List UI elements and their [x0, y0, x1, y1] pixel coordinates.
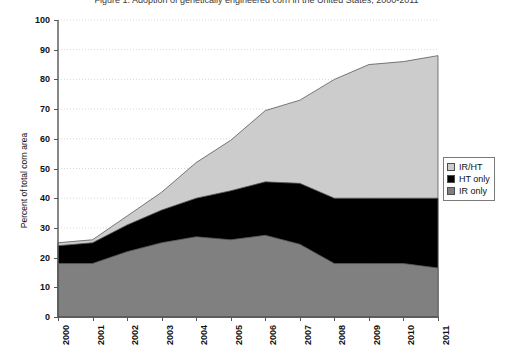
legend-swatch-icon — [447, 163, 455, 171]
legend-item-label: IR/HT — [459, 163, 483, 172]
stacked-area-chart: Figure 1. Adoption of genetically engine… — [0, 0, 513, 361]
legend-item[interactable]: IR only — [447, 185, 490, 197]
legend-item[interactable]: HT only — [447, 173, 490, 185]
legend-item[interactable]: IR/HT — [447, 161, 490, 173]
legend-swatch-icon — [447, 175, 455, 183]
legend[interactable]: IR/HTHT onlyIR only — [443, 157, 495, 201]
legend-item-label: HT only — [459, 175, 490, 184]
legend-swatch-icon — [447, 187, 455, 195]
area-series-group — [58, 56, 438, 317]
legend-item-label: IR only — [459, 187, 487, 196]
plot-area — [0, 0, 513, 361]
